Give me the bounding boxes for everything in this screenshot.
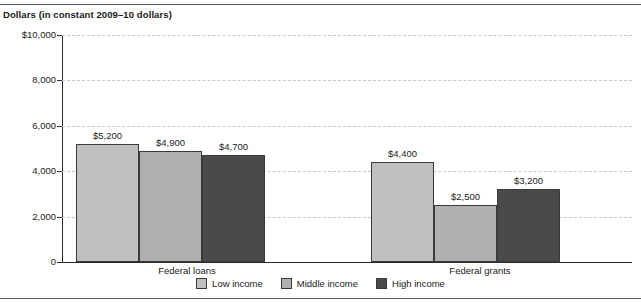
- legend-item: Low income: [196, 278, 263, 289]
- legend-label: High income: [392, 278, 445, 289]
- bottom-divider-rule: [0, 298, 641, 299]
- gridline: [62, 126, 632, 127]
- bar: [434, 205, 497, 262]
- y-axis-tick: [57, 262, 62, 263]
- top-divider-rule: [0, 4, 641, 5]
- y-axis-tick-label: 6,000: [32, 120, 56, 131]
- y-axis-tick: [57, 217, 62, 218]
- x-axis-line: [62, 262, 632, 263]
- chart-plot-area: $5,200$4,900$4,700$4,400$2,500$3,200: [62, 35, 632, 262]
- legend-swatch-icon: [281, 278, 292, 289]
- bar: [139, 151, 202, 262]
- y-axis-tick: [57, 80, 62, 81]
- bar-value-label: $4,400: [371, 148, 434, 159]
- gridline: [62, 35, 632, 36]
- y-axis-tick-label: $10,000: [22, 29, 56, 40]
- gridline: [62, 80, 632, 81]
- bar: [497, 189, 560, 262]
- y-axis-tick-label: 4,000: [32, 165, 56, 176]
- y-axis-tick-label: 8,000: [32, 74, 56, 85]
- y-axis-tick: [57, 171, 62, 172]
- legend-swatch-icon: [196, 278, 207, 289]
- y-axis-tick: [57, 35, 62, 36]
- legend-label: Low income: [212, 278, 263, 289]
- bar-value-label: $5,200: [76, 130, 139, 141]
- bar-value-label: $2,500: [434, 191, 497, 202]
- legend-item: Middle income: [281, 278, 358, 289]
- y-axis-tick-label: 2,000: [32, 211, 56, 222]
- bar-value-label: $4,700: [202, 141, 265, 152]
- legend-swatch-icon: [376, 278, 387, 289]
- bar: [202, 155, 265, 262]
- y-axis-tick-label: 0: [51, 256, 56, 267]
- bar: [371, 162, 434, 262]
- y-axis-title: Dollars (in constant 2009–10 dollars): [3, 9, 172, 20]
- bar-value-label: $4,900: [139, 137, 202, 148]
- y-axis-tick-labels: $10,0008,0006,0004,0002,0000: [0, 35, 56, 262]
- bar-value-label: $3,200: [497, 175, 560, 186]
- bar: [76, 144, 139, 262]
- x-axis-category-label: Federal grants: [420, 265, 540, 276]
- y-axis-tick: [57, 126, 62, 127]
- chart-legend: Low incomeMiddle incomeHigh income: [0, 278, 641, 289]
- legend-label: Middle income: [297, 278, 358, 289]
- x-axis-category-label: Federal loans: [127, 265, 247, 276]
- legend-item: High income: [376, 278, 445, 289]
